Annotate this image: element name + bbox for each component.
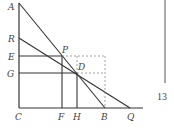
page-number: 13 (157, 91, 167, 102)
label-P: P (61, 45, 69, 55)
label-F: F (57, 112, 65, 122)
label-B: B (100, 112, 108, 122)
label-Q: Q (127, 112, 135, 122)
label-R: R (7, 34, 15, 44)
geometry-diagram: A R E G C P D F H B Q 13 (0, 0, 174, 130)
label-H: H (72, 112, 81, 122)
label-E: E (7, 52, 15, 62)
label-A: A (7, 2, 15, 12)
label-D: D (77, 62, 85, 72)
label-G: G (7, 69, 14, 79)
label-C: C (15, 112, 22, 122)
